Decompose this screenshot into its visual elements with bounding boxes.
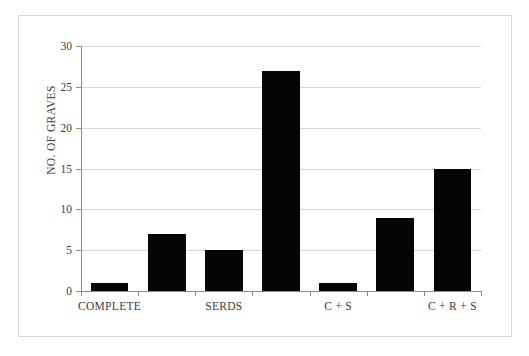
x-tick-label: SERDS xyxy=(205,300,242,312)
x-axis-line xyxy=(81,291,481,292)
y-axis-line xyxy=(81,46,82,291)
bar xyxy=(319,283,357,291)
y-tick-label: 10 xyxy=(61,203,73,215)
x-tick-mark xyxy=(481,291,482,296)
y-tick-label: 20 xyxy=(61,121,73,133)
bar xyxy=(148,234,186,291)
y-axis-title: NO. OF GRAVES xyxy=(45,50,57,210)
bar xyxy=(376,218,414,292)
y-tick-label: 25 xyxy=(61,81,73,93)
plot-area: 051015202530 COMPLETESERDSC + SC + R + S xyxy=(81,46,481,291)
y-tick-label: 0 xyxy=(66,285,72,297)
bar xyxy=(434,169,472,292)
y-tick-label: 5 xyxy=(66,244,72,256)
y-tick-label: 15 xyxy=(61,162,73,174)
bar xyxy=(91,283,129,291)
chart-figure: NO. OF GRAVES 051015202530 COMPLETESERDS… xyxy=(18,15,512,337)
x-tick-label: C + S xyxy=(324,300,352,312)
x-tick-label: COMPLETE xyxy=(78,300,141,312)
x-tick-label: C + R + S xyxy=(428,300,477,312)
bar xyxy=(262,71,300,292)
gridline xyxy=(81,46,481,47)
bar xyxy=(205,250,243,291)
y-tick-label: 30 xyxy=(61,40,73,52)
